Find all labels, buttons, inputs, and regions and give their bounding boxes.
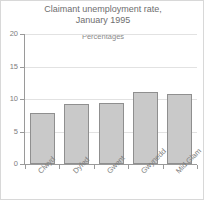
y-tick-label: 5: [1, 128, 18, 136]
chart-container: Claimant unemployment rate, January 1995…: [0, 0, 204, 200]
x-tick-mark: [197, 165, 198, 169]
plot-area: [25, 34, 197, 164]
y-tick-label: 10: [1, 95, 18, 103]
gridline: [25, 34, 197, 35]
x-tick-mark: [59, 165, 60, 169]
x-tick-mark: [94, 165, 95, 169]
y-tick-label: 15: [1, 63, 18, 71]
y-tick-label: 20: [1, 30, 18, 38]
y-tick-label: 0: [1, 160, 18, 168]
gridline: [25, 67, 197, 68]
chart-title: Claimant unemployment rate, January 1995: [1, 4, 204, 26]
x-tick-mark: [25, 165, 26, 169]
x-tick-mark: [163, 165, 164, 169]
x-tick-mark: [128, 165, 129, 169]
